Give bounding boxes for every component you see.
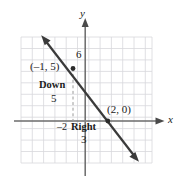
x-axis-arrowhead — [156, 117, 165, 124]
coordinate-plane-svg — [0, 0, 179, 184]
point-marker-a — [71, 66, 76, 71]
run-value-label: 3 — [81, 134, 87, 145]
rise-word-label: Down — [39, 80, 65, 91]
x-axis-label: x — [168, 114, 173, 125]
point-marker-b — [105, 119, 110, 124]
axis-lines — [14, 22, 160, 176]
y-intercept-label: 6 — [76, 49, 82, 60]
point-markers — [71, 66, 111, 123]
run-word-label: Right — [71, 122, 96, 133]
x-tick-label: –2 — [57, 122, 67, 132]
y-axis-arrowhead — [82, 18, 89, 27]
graph-figure: y x (–1, 5) (2, 0) 6 –2 Down 5 Right 3 — [0, 0, 179, 184]
rise-value-label: 5 — [51, 93, 57, 104]
point-b-label: (2, 0) — [107, 104, 131, 115]
y-axis-label: y — [80, 8, 85, 19]
point-a-label: (–1, 5) — [30, 61, 59, 72]
